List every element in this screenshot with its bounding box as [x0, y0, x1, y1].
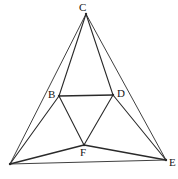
seg-D-F: [84, 95, 113, 145]
vertex-dot-layer: [9, 13, 167, 165]
seg-C-D: [86, 14, 113, 95]
seg-B-D: [59, 95, 113, 96]
vertex-label-c: C: [79, 2, 86, 13]
segment-layer: [10, 14, 166, 164]
vertex-label-d: D: [117, 88, 125, 99]
geometry-canvas: [0, 0, 178, 179]
seg-C-E: [86, 14, 166, 160]
vertex-label-f: F: [80, 147, 86, 158]
seg-B-F: [59, 96, 84, 145]
vertex-dot-d: [112, 94, 114, 96]
vertex-dot-b: [58, 95, 60, 97]
vertex-dot-a: [9, 163, 11, 165]
seg-C-B: [59, 14, 86, 96]
geometry-figure: BCDEF: [0, 0, 178, 179]
vertex-label-b: B: [48, 89, 55, 100]
seg-F-E: [84, 145, 166, 160]
vertex-label-e: E: [169, 157, 176, 168]
vertex-dot-c: [85, 13, 87, 15]
seg-A-E: [10, 160, 166, 164]
vertex-dot-e: [165, 159, 167, 161]
seg-D-E: [113, 95, 166, 160]
